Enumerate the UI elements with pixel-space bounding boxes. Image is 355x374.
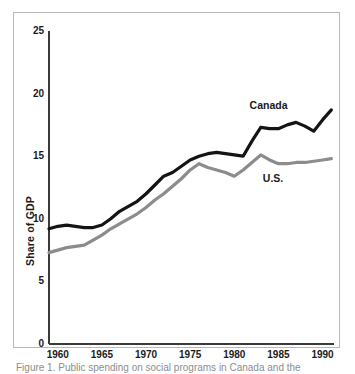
x-tick-label: 1990 — [301, 349, 345, 360]
series-label-us: U.S. — [263, 172, 283, 184]
axis-lines — [49, 31, 334, 344]
y-tick-label: 15 — [18, 150, 44, 161]
y-tick-label: 0 — [18, 338, 44, 349]
x-tick-label: 1965 — [80, 349, 124, 360]
series-label-canada: Canada — [250, 99, 288, 111]
x-tick-label: 1975 — [168, 349, 212, 360]
series-line-us — [49, 155, 331, 253]
chart-plot-area — [14, 13, 339, 347]
y-axis-title: Share of GDP — [24, 171, 36, 291]
x-tick-label: 1980 — [212, 349, 256, 360]
x-tick-label: 1985 — [256, 349, 300, 360]
y-tick-label: 25 — [18, 25, 44, 36]
chart-frame: 0510152025 1960196519701975198019851990 … — [13, 12, 340, 348]
figure-container: 0510152025 1960196519701975198019851990 … — [0, 0, 355, 374]
x-tick-label: 1970 — [124, 349, 168, 360]
x-tick-label: 1960 — [36, 349, 80, 360]
figure-caption: Figure 1. Public spending on social prog… — [16, 362, 346, 374]
y-tick-label: 20 — [18, 88, 44, 99]
data-series-group — [49, 110, 331, 253]
